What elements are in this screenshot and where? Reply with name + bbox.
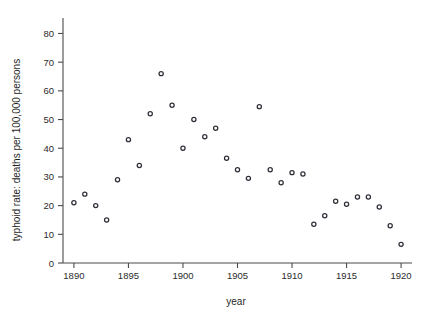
x-tick-label: 1920 [391, 270, 412, 281]
x-tick-label: 1890 [63, 270, 84, 281]
data-point [323, 214, 327, 218]
data-point [344, 202, 348, 206]
x-axis: 1890189519001905191019151920 [63, 263, 412, 281]
data-point [126, 138, 130, 142]
plot-canvas: 01020304050607080 1890189519001905191019… [0, 0, 423, 316]
data-point [94, 204, 98, 208]
x-tick-label: 1915 [336, 270, 357, 281]
data-point [334, 199, 338, 203]
data-point [72, 201, 76, 205]
data-point [235, 168, 239, 172]
data-point [268, 168, 272, 172]
y-tick-label: 0 [49, 258, 54, 269]
data-point [137, 163, 141, 167]
x-tick-label: 1905 [227, 270, 248, 281]
data-point [115, 178, 119, 182]
data-point [366, 195, 370, 199]
data-point [377, 205, 381, 209]
x-tick-label: 1900 [172, 270, 193, 281]
data-point [83, 192, 87, 196]
y-tick-label: 10 [43, 229, 54, 240]
x-tick-label: 1910 [281, 270, 302, 281]
y-tick-label: 40 [43, 143, 54, 154]
y-tick-label: 80 [43, 28, 54, 39]
data-point [148, 112, 152, 116]
x-axis-title: year [226, 296, 246, 307]
data-point [301, 172, 305, 176]
y-tick-label: 20 [43, 200, 54, 211]
data-point [170, 103, 174, 107]
data-point [290, 171, 294, 175]
data-point [203, 135, 207, 139]
data-point [246, 176, 250, 180]
y-tick-label-group: 01020304050607080 [43, 28, 54, 269]
data-point [355, 195, 359, 199]
data-point [279, 181, 283, 185]
data-point [257, 105, 261, 109]
y-axis: 01020304050607080 [43, 18, 63, 269]
y-tick-label: 50 [43, 114, 54, 125]
y-tick-label: 70 [43, 57, 54, 68]
data-point [192, 117, 196, 121]
x-tick-label: 1895 [118, 270, 139, 281]
data-point [224, 156, 228, 160]
data-point [312, 222, 316, 226]
x-tick-label-group: 1890189519001905191019151920 [63, 270, 411, 281]
data-point [214, 126, 218, 130]
data-point-layer [72, 72, 403, 247]
y-tick-group [58, 33, 63, 263]
data-point [159, 72, 163, 76]
data-point [399, 242, 403, 246]
data-point [181, 146, 185, 150]
x-tick-group [74, 263, 401, 268]
data-point [388, 224, 392, 228]
scatter-chart: 01020304050607080 1890189519001905191019… [0, 0, 423, 316]
y-axis-title: typhoid rate: deaths per 100,000 persons [11, 59, 22, 241]
data-point [105, 218, 109, 222]
y-tick-label: 60 [43, 85, 54, 96]
y-tick-label: 30 [43, 171, 54, 182]
